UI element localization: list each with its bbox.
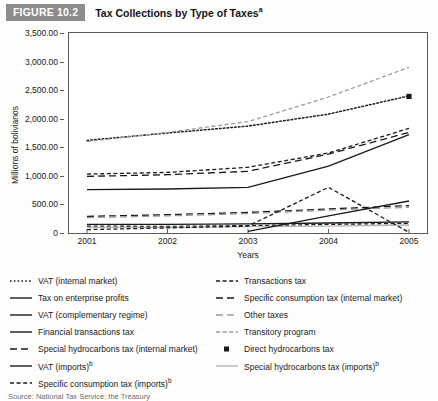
- chart-series-line: [87, 206, 409, 217]
- legend-item-label: Transactions tax: [244, 276, 306, 286]
- legend-item[interactable]: Direct hydrocarbons tax: [216, 340, 430, 357]
- x-axis-tick-label: 2004: [319, 236, 338, 246]
- legend-swatch: [216, 310, 238, 320]
- legend-item-label: Direct hydrocarbons tax: [244, 344, 334, 354]
- legend-swatch: [10, 276, 32, 286]
- figure-title-text: Tax Collections by Type of Taxes: [95, 7, 258, 19]
- legend-item[interactable]: Specific consumption tax (internal marke…: [216, 289, 430, 306]
- legend-swatch: [216, 327, 238, 337]
- legend-item[interactable]: Special hydrocarbons tax (internal marke…: [10, 340, 216, 357]
- figure-header: FIGURE 10.2 Tax Collections by Type of T…: [6, 4, 263, 21]
- chart-series-line: [87, 128, 409, 174]
- y-axis-tick-mark: [60, 119, 64, 120]
- legend-item-label: Tax on enterprise profits: [38, 293, 129, 303]
- x-axis-tick-label: 2005: [400, 236, 419, 246]
- x-axis-tick-label: 2003: [239, 236, 258, 246]
- data-point-marker: [406, 94, 411, 99]
- y-axis-tick-mark: [60, 176, 64, 177]
- chart-series-line: [87, 132, 409, 176]
- legend-item[interactable]: VAT (internal market): [10, 272, 216, 289]
- y-axis-tick-label: 0: [53, 228, 58, 238]
- legend-swatch: [10, 361, 32, 371]
- legend-item[interactable]: Transactions tax: [216, 272, 430, 289]
- legend-swatch: [10, 327, 32, 337]
- legend-item[interactable]: Financial transactions tax: [10, 323, 216, 340]
- x-axis-tick-label: 2002: [158, 236, 177, 246]
- y-axis-tick-label: 2,000.00: [25, 114, 58, 124]
- plot-area: [68, 32, 428, 234]
- legend-swatch: [216, 361, 238, 371]
- chart-lines: [69, 33, 427, 233]
- legend-item-superscript: b: [168, 377, 172, 384]
- y-axis-tick-label: 500.00: [32, 199, 58, 209]
- x-axis-tick-label: 2001: [78, 236, 97, 246]
- x-axis: 20012002200320042005: [68, 236, 428, 250]
- y-axis-tick-mark: [60, 233, 64, 234]
- legend-item-superscript: b: [89, 360, 93, 367]
- legend-item-label: Other taxes: [244, 310, 288, 320]
- x-axis-title: Years: [68, 250, 428, 260]
- legend-item[interactable]: Other taxes: [216, 306, 430, 323]
- y-axis-tick-mark: [60, 90, 64, 91]
- legend-item-label: VAT (imports)b: [38, 360, 93, 372]
- chart-legend: VAT (internal market)Transactions taxTax…: [10, 272, 430, 391]
- legend-item-label: VAT (complementary regime): [38, 310, 148, 320]
- legend-swatch: [10, 310, 32, 320]
- legend-swatch: [216, 293, 238, 303]
- y-axis-tick-label: 1,500.00: [25, 142, 58, 152]
- legend-item-label: Special hydrocarbons tax (internal marke…: [38, 344, 198, 354]
- legend-swatch: [10, 378, 32, 388]
- y-axis-tick-mark: [60, 147, 64, 148]
- y-axis-tick-label: 3,000.00: [25, 57, 58, 67]
- y-axis-tick-mark: [60, 62, 64, 63]
- chart-series-line: [87, 207, 409, 217]
- source-note: Source: National Tax Service; the Treasu…: [8, 392, 150, 401]
- y-axis-tick-label: 3,500.00: [25, 28, 58, 38]
- legend-item[interactable]: Tax on enterprise profits: [10, 289, 216, 306]
- legend-item[interactable]: VAT (imports)b: [10, 357, 216, 374]
- figure-number-badge: FIGURE 10.2: [6, 4, 85, 21]
- legend-marker-square-icon: [224, 346, 229, 351]
- legend-item-label: Specific consumption tax (imports)b: [38, 377, 172, 389]
- legend-item-label: Special hydrocarbons tax (imports)b: [244, 360, 379, 372]
- legend-item-label: Transitory program: [244, 327, 315, 337]
- figure-title-superscript: a: [259, 6, 263, 13]
- legend-item-superscript: b: [375, 360, 379, 367]
- legend-item[interactable]: Transitory program: [216, 323, 430, 340]
- y-axis-tick-label: 2,500.00: [25, 85, 58, 95]
- y-axis-tick-mark: [60, 204, 64, 205]
- legend-swatch: [216, 276, 238, 286]
- y-axis-tick-label: 1,000.00: [25, 171, 58, 181]
- legend-item[interactable]: Special hydrocarbons tax (imports)b: [216, 357, 430, 374]
- y-axis: Millions of bolivianos 0500.001,000.001,…: [0, 32, 64, 234]
- legend-swatch: [10, 293, 32, 303]
- chart-series-line: [87, 67, 409, 141]
- legend-item-label: Financial transactions tax: [38, 327, 134, 337]
- y-axis-title: Millions of bolivianos: [10, 85, 20, 205]
- legend-item[interactable]: VAT (complementary regime): [10, 306, 216, 323]
- legend-swatch: [10, 344, 32, 354]
- figure-title: Tax Collections by Type of Taxesa: [95, 6, 262, 19]
- legend-item-label: VAT (internal market): [38, 276, 117, 286]
- legend-item-label: Specific consumption tax (internal marke…: [244, 293, 402, 303]
- chart-series-line: [87, 135, 409, 190]
- y-axis-tick-mark: [60, 33, 64, 34]
- chart-series-line: [248, 201, 409, 231]
- legend-item[interactable]: Specific consumption tax (imports)b: [10, 374, 216, 391]
- legend-swatch: [216, 344, 238, 354]
- chart-series-line: [87, 96, 409, 140]
